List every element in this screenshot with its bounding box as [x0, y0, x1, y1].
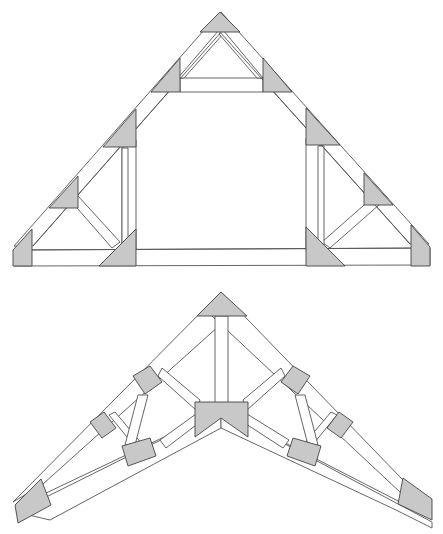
apex-plate [200, 12, 240, 32]
apex-plate [197, 292, 247, 316]
right-inner-vertical [318, 146, 324, 250]
lower-right-web-plate [364, 173, 393, 205]
upper-right-plate [263, 58, 292, 92]
attic-truss [13, 12, 430, 266]
mid-right-plate [306, 108, 340, 145]
right-diagonal-web [322, 198, 380, 248]
left-heel-plate [13, 229, 32, 266]
bottom-chord [14, 248, 430, 266]
left-inner-vertical [122, 148, 128, 250]
truss-diagram [0, 0, 443, 534]
right-web-to-center [243, 368, 285, 410]
lower-left-web-plate [49, 176, 78, 208]
upper-left-plate [151, 58, 180, 92]
collar-tie [180, 78, 263, 92]
scissor-truss [13, 292, 432, 528]
king-post [215, 316, 228, 405]
mid-left-plate [103, 109, 136, 147]
right-heel-plate [411, 225, 430, 266]
left-web-to-center [158, 368, 200, 410]
